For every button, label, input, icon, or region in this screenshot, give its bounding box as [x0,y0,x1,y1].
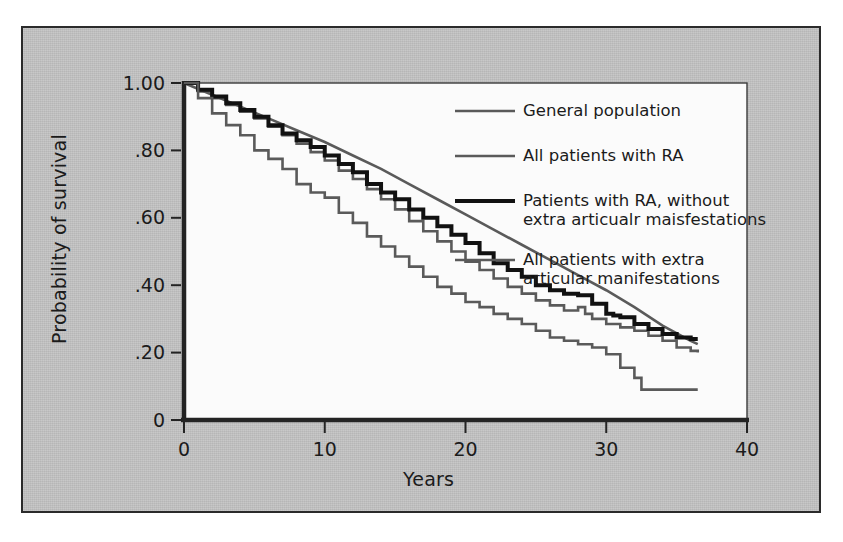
x-tick-label: 10 [313,438,337,460]
legend-label: All patients with RA [523,146,684,165]
x-tick-label: 20 [453,438,477,460]
x-tick-label: 30 [594,438,618,460]
y-tick-label: .40 [135,274,165,296]
survival-chart: 1.00.80.60.40.200 010203040 General popu… [23,28,823,515]
y-axis-ticks: 1.00.80.60.40.200 [123,72,181,431]
y-tick-label: .60 [135,206,165,228]
x-axis-ticks: 010203040 [178,422,759,460]
y-tick-label: 1.00 [123,72,165,94]
x-tick-label: 0 [178,438,190,460]
legend-label: All patients with extraarticular manifes… [523,250,720,288]
y-tick-label: 0 [153,409,165,431]
figure-panel: Probability of survival Years 1.00.80.60… [21,26,821,513]
legend-label: General population [523,101,681,120]
y-tick-label: .80 [135,139,165,161]
y-tick-label: .20 [135,341,165,363]
x-tick-label: 40 [735,438,759,460]
